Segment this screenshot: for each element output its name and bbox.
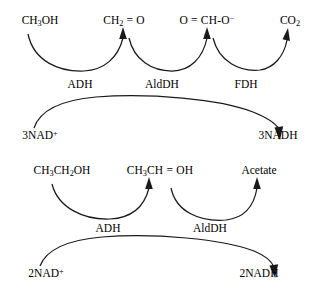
cofactor-nadh-2: 2NADH xyxy=(240,268,279,280)
species-acetate: Acetate xyxy=(241,165,276,177)
arrow-alddh-1 xyxy=(129,27,211,71)
species-methanol: CH3OH xyxy=(22,15,59,29)
superscript: + xyxy=(53,129,58,138)
species-ethanol: CH3CH2OH xyxy=(34,165,91,179)
cofactor-nad-plus-3: 3NAD+ xyxy=(22,130,57,142)
arrow-adh-2 xyxy=(52,177,153,219)
species-formaldehyde: CH2 = O xyxy=(103,15,144,29)
arrow-fdh-1 xyxy=(213,28,290,70)
arrow-nad-cycle-1 xyxy=(34,96,283,140)
arrow-alddh-2 xyxy=(171,177,261,220)
species-acetaldehyde: CH3CH = OH xyxy=(127,165,193,179)
arrow-layer xyxy=(0,0,312,294)
arrow-adh-1 xyxy=(28,27,127,71)
enzyme-fdh-1: FDH xyxy=(234,79,257,91)
species-formate: O = CH-O− xyxy=(180,15,235,27)
pathway-diagram: CH3OH CH2 = O O = CH-O− CO2 ADH AldDH FD… xyxy=(0,0,312,294)
cofactor-nadh-3: 3NADH xyxy=(259,130,298,142)
enzyme-alddh-1: AldDH xyxy=(145,79,179,91)
cofactor-nad-plus-2: 2NAD+ xyxy=(28,268,63,280)
enzyme-adh-2: ADH xyxy=(96,223,121,235)
species-carbon-dioxide: CO2 xyxy=(280,15,300,29)
subscript: 2 xyxy=(296,19,300,28)
enzyme-alddh-2: AldDH xyxy=(193,223,227,235)
enzyme-adh-1: ADH xyxy=(68,79,93,91)
superscript: − xyxy=(230,14,235,23)
superscript: + xyxy=(59,267,64,276)
